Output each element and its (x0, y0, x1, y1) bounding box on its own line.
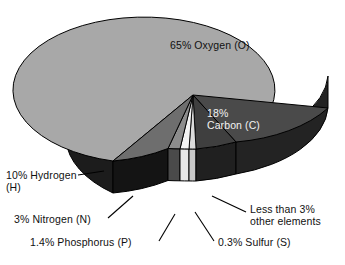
slice-label-oxygen: 65% Oxygen (O) (170, 40, 250, 52)
slice-label-nitrogen: 3% Nitrogen (N) (14, 214, 91, 226)
slice-side-nitrogen (168, 149, 180, 181)
leader-line-other (212, 196, 246, 212)
leader-line-phosphorus (159, 214, 175, 241)
leader-line-sulfur (195, 212, 214, 241)
slice-label-carbon: 18%Carbon (C) (207, 108, 260, 131)
slice-side-sulfur (189, 149, 196, 181)
slice-label-phosphorus: 1.4% Phosphorus (P) (30, 237, 132, 249)
slice-label-hydrogen: 10% Hydrogen(H) (6, 170, 77, 193)
slice-label-other-elements: Less than 3%other elements (250, 204, 321, 227)
slice-label-hydrogen-line1: 10% Hydrogen (6, 169, 77, 181)
pie-chart-figure: 65% Oxygen (O) 18%Carbon (C) 10% Hydroge… (0, 0, 345, 265)
slice-side-phosphorus (180, 149, 189, 181)
slice-label-hydrogen-line2: (H) (6, 181, 21, 193)
slice-label-other-line1: Less than 3% (250, 203, 315, 215)
slice-label-carbon-line1: 18% (207, 107, 228, 119)
slice-label-sulfur: 0.3% Sulfur (S) (218, 237, 291, 249)
leader-line-nitrogen (108, 196, 133, 218)
slice-label-carbon-line2: Carbon (C) (207, 119, 260, 131)
slice-label-other-line2: other elements (250, 215, 321, 227)
